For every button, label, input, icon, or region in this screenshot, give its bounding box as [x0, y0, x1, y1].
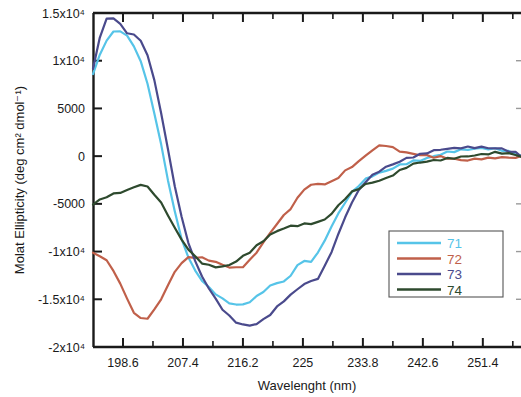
y-tick-label: -1.5x10⁴ [38, 293, 85, 307]
x-tick-label: 198.6 [107, 356, 138, 370]
y-tick-label: -2x10⁴ [48, 341, 85, 355]
legend-label-72: 72 [447, 252, 462, 267]
x-tick-label: 233.8 [347, 356, 378, 370]
chart-canvas: 1.5x10⁴1x10⁴50000-5000-1x10⁴-1.5x10⁴-2x1… [0, 0, 521, 397]
y-tick-label: -1x10⁴ [48, 245, 85, 259]
x-axis-tick-labels: 198.6207.4216.2225233.8242.6251.4 [107, 356, 498, 370]
x-tick-label: 216.2 [227, 356, 258, 370]
y-tick-label: 1x10⁴ [53, 54, 85, 68]
x-tick-label: 251.4 [467, 356, 498, 370]
cd-spectrum-chart: 1.5x10⁴1x10⁴50000-5000-1x10⁴-1.5x10⁴-2x1… [0, 0, 521, 397]
y-axis-tick-labels: 1.5x10⁴1x10⁴50000-5000-1x10⁴-1.5x10⁴-2x1… [38, 7, 85, 355]
y-tick-label: -5000 [53, 197, 85, 211]
y-axis-title: Molat Ellipticity (deg cm² dmol⁻¹) [12, 86, 27, 274]
y-tick-label: 1.5x10⁴ [42, 7, 85, 21]
y-tick-label: 0 [78, 150, 85, 164]
legend-label-71: 71 [447, 236, 462, 251]
legend-border [389, 231, 503, 297]
x-axis-title: Wavelenght (nm) [258, 378, 357, 393]
legend-label-74: 74 [447, 283, 463, 298]
legend-label-73: 73 [447, 267, 462, 282]
chart-legend: 71727374 [389, 231, 503, 298]
x-tick-label: 225 [292, 356, 313, 370]
x-tick-label: 242.6 [407, 356, 438, 370]
y-tick-label: 5000 [57, 102, 85, 116]
x-tick-label: 207.4 [167, 356, 198, 370]
